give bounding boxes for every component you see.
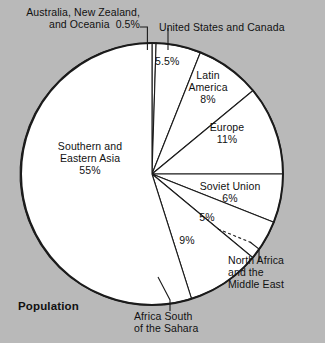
label-southern-eastern-asia: Southern and Eastern Asia 55% bbox=[36, 140, 144, 177]
population-caption: Population bbox=[18, 300, 79, 312]
label-europe: Europe 11% bbox=[196, 121, 258, 145]
label-united-states-canada-line1: United States and Canada bbox=[159, 21, 285, 33]
value-africa-south-of-sahara: 9% bbox=[169, 234, 205, 246]
label-southern-eastern-asia-line2: Eastern Asia bbox=[60, 152, 120, 164]
label-north-africa-line1: North Africa bbox=[228, 254, 284, 266]
label-soviet-union-line1: Soviet Union bbox=[200, 180, 261, 192]
label-north-africa-line3: Middle East bbox=[228, 278, 284, 290]
value-north-africa-middle-east: 5% bbox=[187, 211, 227, 223]
label-soviet-union: Soviet Union 6% bbox=[182, 180, 278, 204]
population-pie-figure: Australia, New Zealand, and Oceania 0.5%… bbox=[0, 0, 325, 343]
label-africa-south-of-sahara: Africa South of the Sahara bbox=[134, 310, 198, 334]
label-north-africa-middle-east: North Africa and the Middle East bbox=[228, 254, 284, 291]
label-oceania: Australia, New Zealand, and Oceania 0.5% bbox=[8, 6, 140, 30]
value-united-states-canada: 5.5% bbox=[155, 55, 179, 67]
label-africa-south-line2: of the Sahara bbox=[134, 322, 198, 334]
label-oceania-line2: and Oceania bbox=[49, 18, 110, 30]
value-soviet-union: 6% bbox=[222, 192, 237, 204]
label-southern-eastern-asia-line1: Southern and bbox=[58, 140, 122, 152]
label-latin-america-line1: Latin bbox=[196, 69, 219, 81]
label-north-africa-line2: and the bbox=[228, 266, 264, 278]
label-latin-america: Latin America 8% bbox=[176, 69, 240, 106]
label-latin-america-line2: America bbox=[188, 81, 227, 93]
value-latin-america: 8% bbox=[200, 93, 215, 105]
value-oceania: 0.5% bbox=[116, 18, 140, 30]
label-united-states-canada: United States and Canada bbox=[159, 21, 285, 33]
label-africa-south-line1: Africa South bbox=[134, 310, 192, 322]
label-oceania-line1: Australia, New Zealand, bbox=[26, 6, 140, 18]
label-europe-line1: Europe bbox=[210, 121, 244, 133]
value-southern-eastern-asia: 55% bbox=[79, 164, 100, 176]
value-europe: 11% bbox=[217, 133, 238, 145]
